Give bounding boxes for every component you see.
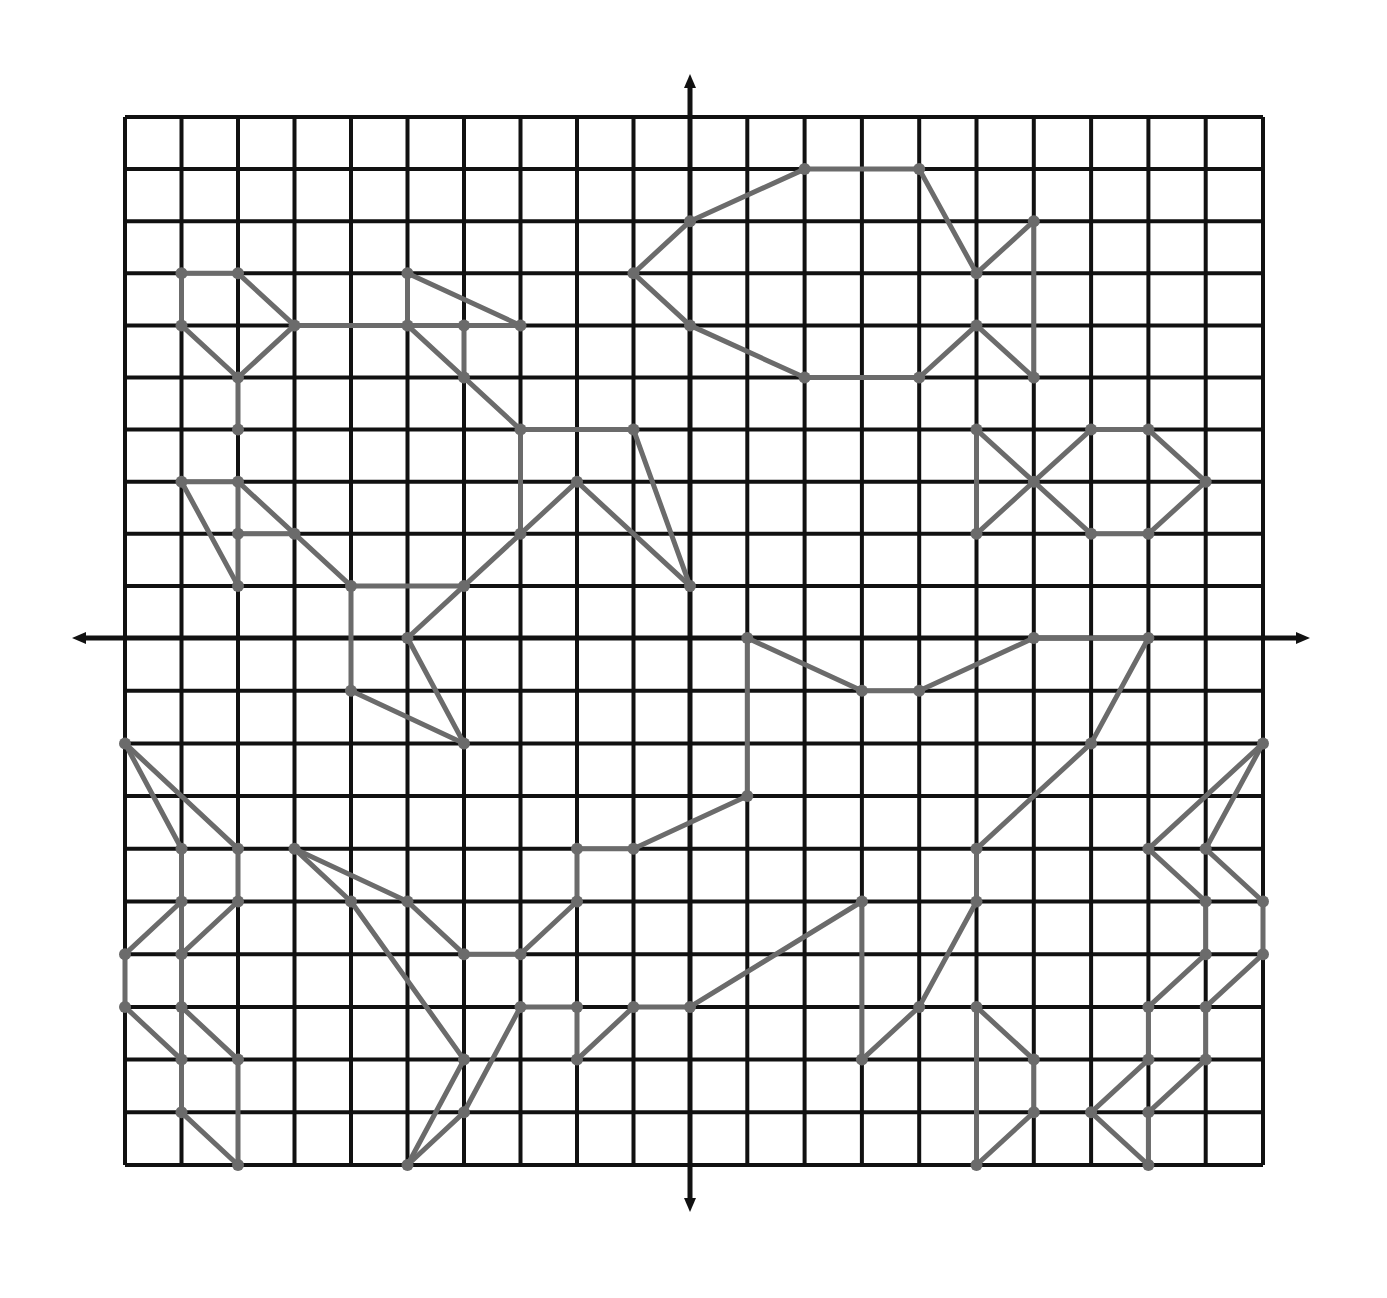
vertex-dot <box>571 1054 583 1066</box>
vertex-dot <box>1257 737 1269 749</box>
line-segment <box>182 902 239 955</box>
vertex-dot <box>1200 1001 1212 1013</box>
vertex-dot <box>913 1001 925 1013</box>
line-segment <box>1091 1112 1148 1165</box>
vertex-dot <box>971 896 983 908</box>
y-axis-down-arrow-icon <box>684 1198 696 1212</box>
vertex-dot <box>628 843 640 855</box>
vertex-dot <box>232 372 244 384</box>
vertex-dot <box>232 267 244 279</box>
vertex-dot <box>402 1159 414 1171</box>
vertex-dot <box>1085 737 1097 749</box>
vertex-dot <box>856 1054 868 1066</box>
vertex-dots <box>119 163 1269 1171</box>
vertex-dot <box>232 424 244 436</box>
vertex-dot <box>799 163 811 175</box>
vertex-dot <box>232 843 244 855</box>
vertex-dot <box>119 948 131 960</box>
vertex-dot <box>402 632 414 644</box>
line-segment <box>1206 849 1263 902</box>
vertex-dot <box>119 737 131 749</box>
vertex-dot <box>628 267 640 279</box>
axes <box>72 74 1310 1212</box>
vertex-dot <box>913 163 925 175</box>
vertex-dot <box>458 1054 470 1066</box>
vertex-dot <box>684 215 696 227</box>
line-segment <box>295 849 352 902</box>
vertex-dot <box>628 1001 640 1013</box>
line-segment <box>238 325 295 377</box>
vertex-dot <box>1085 424 1097 436</box>
vertex-dot <box>971 843 983 855</box>
vertex-dot <box>176 1106 188 1118</box>
x-axis-left-arrow-icon <box>72 632 86 644</box>
vertex-dot <box>1257 948 1269 960</box>
line-segment <box>1148 430 1205 482</box>
vertex-dot <box>345 896 357 908</box>
vertex-dot <box>289 528 301 540</box>
vertex-dot <box>402 319 414 331</box>
vertex-dot <box>684 1001 696 1013</box>
vertex-dot <box>741 632 753 644</box>
y-axis-up-arrow-icon <box>684 74 696 88</box>
vertex-dot <box>571 476 583 488</box>
vertex-dot <box>1200 896 1212 908</box>
vertex-dot <box>232 1159 244 1171</box>
vertex-dot <box>856 896 868 908</box>
vertex-dot <box>1200 843 1212 855</box>
line-segment <box>1148 954 1205 1007</box>
vertex-dot <box>458 319 470 331</box>
vertex-dot <box>289 843 301 855</box>
line-segment <box>1206 954 1263 1007</box>
vertex-dot <box>232 580 244 592</box>
vertex-dot <box>176 896 188 908</box>
vertex-dot <box>458 372 470 384</box>
line-segment <box>125 1007 182 1060</box>
vertex-dot <box>913 685 925 697</box>
coordinate-grid <box>0 0 1387 1298</box>
vertex-dot <box>232 1054 244 1066</box>
line-segment <box>1091 1060 1148 1113</box>
vertex-dot <box>515 319 527 331</box>
vertex-dot <box>799 372 811 384</box>
vertex-dot <box>345 580 357 592</box>
vertex-dot <box>1200 476 1212 488</box>
line-segment <box>577 1007 634 1060</box>
vertex-dot <box>176 476 188 488</box>
line-segment <box>977 1112 1034 1165</box>
vertex-dot <box>1028 1106 1040 1118</box>
vertex-dot <box>1257 896 1269 908</box>
line-segment <box>125 902 182 955</box>
vertex-dot <box>1028 632 1040 644</box>
vertex-dot <box>1200 1054 1212 1066</box>
line-segment <box>977 1007 1034 1060</box>
vertex-dot <box>402 896 414 908</box>
line-segment <box>238 273 295 325</box>
vertex-dot <box>119 1001 131 1013</box>
line-segment <box>634 221 691 273</box>
vertex-dot <box>1142 1106 1154 1118</box>
vertex-dot <box>628 424 640 436</box>
vertex-dot <box>458 580 470 592</box>
vertex-dot <box>1142 843 1154 855</box>
vertex-dot <box>232 476 244 488</box>
vertex-dot <box>345 685 357 697</box>
vertex-dot <box>684 319 696 331</box>
line-segment <box>1148 849 1205 902</box>
vertex-dot <box>971 528 983 540</box>
line-segment <box>182 1007 239 1060</box>
line-segment <box>977 430 1034 482</box>
vertex-dot <box>515 424 527 436</box>
vertex-dot <box>515 1001 527 1013</box>
vertex-dot <box>1142 632 1154 644</box>
vertex-dot <box>571 896 583 908</box>
line-segment <box>862 1007 919 1060</box>
vertex-dot <box>232 528 244 540</box>
vertex-dot <box>1085 528 1097 540</box>
vertex-dot <box>1142 1054 1154 1066</box>
vertex-dot <box>971 1001 983 1013</box>
vertex-dot <box>1028 372 1040 384</box>
line-segment <box>521 902 578 955</box>
vertex-dot <box>1142 528 1154 540</box>
vertex-dot <box>571 1001 583 1013</box>
